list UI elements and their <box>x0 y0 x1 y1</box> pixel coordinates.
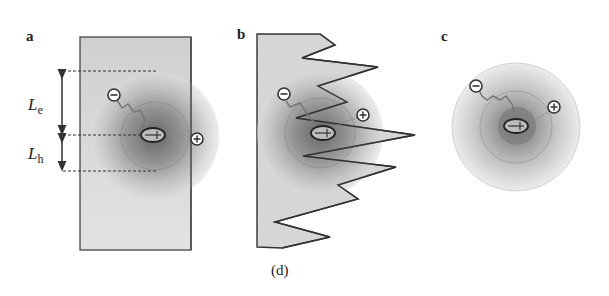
hole-icon <box>191 133 203 145</box>
hole-icon <box>357 109 369 121</box>
electron-icon <box>278 88 290 100</box>
electron-icon <box>108 89 120 101</box>
hole-length-label: Lh <box>27 144 43 166</box>
panel-c <box>452 63 580 191</box>
dipole-icon <box>141 128 165 142</box>
dipole-icon <box>311 126 335 140</box>
electron-icon <box>470 80 482 92</box>
panel-a: Le Lh <box>27 37 219 250</box>
diagram-canvas: Le Lh <box>0 0 609 296</box>
dipole-icon <box>504 119 528 133</box>
hole-icon <box>548 101 560 113</box>
electron-length-label: Le <box>27 95 43 117</box>
panel-b <box>257 34 415 248</box>
